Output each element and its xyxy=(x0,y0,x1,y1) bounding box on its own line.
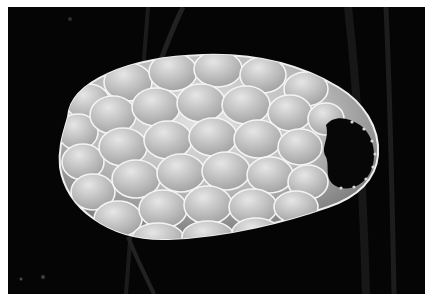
micrograph-image xyxy=(8,7,425,294)
shell-illustration xyxy=(8,7,425,294)
shell xyxy=(58,51,378,255)
